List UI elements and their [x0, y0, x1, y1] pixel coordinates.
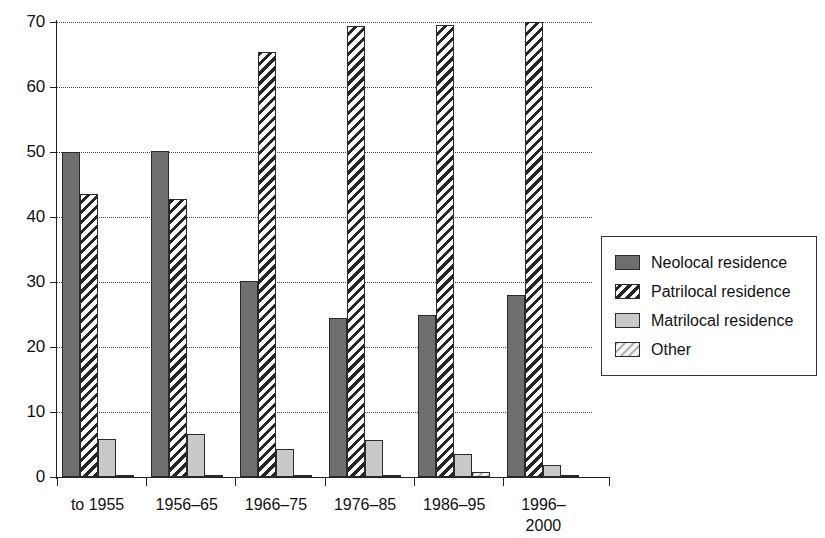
x-axis-tick-mark	[235, 477, 236, 486]
bar-patrilocal	[169, 199, 187, 477]
bar-other	[383, 475, 401, 477]
bar-matrilocal	[187, 434, 205, 477]
x-axis-tick-mark	[414, 477, 415, 486]
x-axis-tick-mark	[609, 477, 610, 486]
y-axis-tick-label: 0	[11, 468, 45, 485]
bar-patrilocal	[436, 25, 454, 477]
bar-patrilocal	[80, 194, 98, 477]
bar-neolocal	[240, 281, 258, 477]
bar-other	[205, 475, 223, 477]
x-axis-tick-mark	[503, 477, 504, 486]
bar-other	[472, 472, 490, 477]
bar-group	[329, 22, 401, 477]
bar-group	[62, 22, 134, 477]
legend-swatch-neolocal	[615, 255, 640, 270]
legend-label: Neolocal residence	[651, 254, 787, 272]
bar-other	[294, 475, 312, 477]
x-axis-tick-label: 1996–2000	[483, 494, 603, 536]
legend-swatch-other	[615, 342, 640, 357]
bar-matrilocal	[98, 439, 116, 477]
x-axis-tick-mark	[57, 477, 58, 486]
bar-group	[240, 22, 312, 477]
y-axis-tick-label: 40	[11, 208, 45, 225]
legend-item-matrilocal: Matrilocal residence	[615, 306, 816, 335]
bar-group	[151, 22, 223, 477]
bar-group	[507, 22, 579, 477]
legend-label: Matrilocal residence	[651, 312, 793, 330]
legend-item-patrilocal: Patrilocal residence	[615, 277, 816, 306]
bar-neolocal	[329, 318, 347, 477]
bar-patrilocal	[525, 22, 543, 477]
plot-area	[57, 22, 592, 477]
legend-swatch-matrilocal	[615, 313, 640, 328]
legend-label: Other	[651, 341, 691, 359]
x-axis-tick-label-line: 2000	[483, 515, 603, 536]
bar-neolocal	[507, 295, 525, 477]
y-axis-tick-label: 20	[11, 338, 45, 355]
y-axis-tick-label: 50	[11, 143, 45, 160]
chart-legend: Neolocal residencePatrilocal residenceMa…	[601, 236, 817, 376]
legend-label: Patrilocal residence	[651, 283, 791, 301]
x-axis-line	[56, 477, 609, 478]
y-axis-tick-label: 60	[11, 78, 45, 95]
bar-other	[116, 475, 134, 477]
bar-matrilocal	[454, 454, 472, 477]
bar-matrilocal	[543, 465, 561, 477]
bar-matrilocal	[365, 440, 383, 477]
bar-neolocal	[151, 151, 169, 477]
x-axis-tick-label-line: 1996–	[483, 494, 603, 515]
bar-chart: 010203040506070 to 19551956–651966–75197…	[0, 0, 825, 538]
y-axis-tick-label: 30	[11, 273, 45, 290]
y-axis-tick-label: 10	[11, 403, 45, 420]
bar-patrilocal	[258, 52, 276, 477]
x-axis-tick-mark	[325, 477, 326, 486]
legend-swatch-patrilocal	[615, 284, 640, 299]
y-axis-tick-label: 70	[11, 13, 45, 30]
bar-matrilocal	[276, 449, 294, 477]
x-axis-tick-mark	[146, 477, 147, 486]
legend-item-other: Other	[615, 335, 816, 364]
y-axis-tick-labels: 010203040506070	[0, 0, 45, 538]
bar-neolocal	[418, 315, 436, 477]
bar-group	[418, 22, 490, 477]
bar-other	[561, 475, 579, 477]
legend-item-neolocal: Neolocal residence	[615, 248, 816, 277]
bar-neolocal	[62, 152, 80, 477]
bar-patrilocal	[347, 26, 365, 477]
